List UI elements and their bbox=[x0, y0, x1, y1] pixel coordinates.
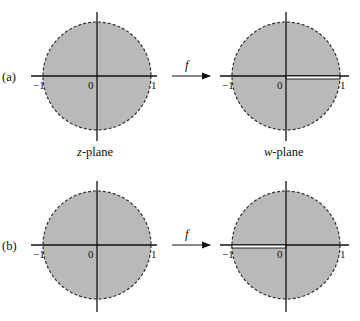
map-label-f: f bbox=[185, 226, 191, 241]
part-label-b: (b) bbox=[2, 239, 17, 253]
row-b: (b) −1 0 1 f −1 0 1 bbox=[2, 181, 349, 312]
w-plane-caption: w-plane bbox=[264, 145, 304, 159]
row-a: (a) −1 0 1 z-plane f −1 0 1 w-plane bbox=[2, 12, 349, 159]
part-label-a: (a) bbox=[2, 70, 16, 84]
slit-positive-real bbox=[286, 76, 340, 79]
tick-one: 1 bbox=[151, 248, 157, 260]
w-plane-b: −1 0 1 bbox=[220, 181, 349, 312]
z-plane-b: −1 0 1 bbox=[31, 181, 157, 312]
tick-one: 1 bbox=[340, 248, 346, 260]
tick-origin: 0 bbox=[277, 248, 283, 260]
mapping-arrow-b: f bbox=[172, 226, 210, 245]
tick-origin: 0 bbox=[88, 79, 94, 91]
map-label-f: f bbox=[185, 57, 191, 72]
tick-neg-one: −1 bbox=[33, 79, 45, 91]
tick-one: 1 bbox=[151, 79, 157, 91]
tick-one: 1 bbox=[340, 79, 346, 91]
tick-neg-one: −1 bbox=[222, 248, 234, 260]
tick-origin: 0 bbox=[277, 79, 283, 91]
z-plane-caption: z-plane bbox=[76, 145, 114, 159]
tick-neg-one: −1 bbox=[33, 248, 45, 260]
mapping-arrow-a: f bbox=[172, 57, 210, 76]
conformal-map-figure: (a) −1 0 1 z-plane f −1 0 1 w-plane bbox=[0, 0, 360, 321]
tick-origin: 0 bbox=[88, 248, 94, 260]
w-plane-a: −1 0 1 w-plane bbox=[220, 12, 349, 159]
tick-neg-one: −1 bbox=[222, 79, 234, 91]
z-plane-a: −1 0 1 z-plane bbox=[31, 12, 157, 159]
